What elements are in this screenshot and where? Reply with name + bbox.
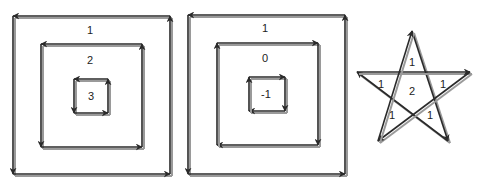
winding-number-label: 2	[409, 85, 415, 97]
winding-number-label: 1	[262, 22, 268, 34]
winding-number-label: 1	[87, 24, 93, 36]
winding-number-label: 1	[389, 109, 395, 121]
nested-squares-middle: 10-1	[188, 15, 347, 176]
winding-number-label: 1	[409, 56, 415, 68]
winding-number-diagram: 123 10-1 111211	[0, 0, 483, 187]
winding-number-label: 3	[88, 90, 94, 102]
winding-number-label: 1	[440, 78, 446, 90]
star-edge-arrow	[357, 72, 448, 141]
winding-number-label: 2	[87, 54, 93, 66]
winding-number-label: 1	[427, 109, 433, 121]
square-path-ccw: 3	[74, 79, 110, 115]
winding-number-label: -1	[261, 88, 271, 100]
pentagram: 111211	[357, 31, 472, 143]
winding-number-label: 1	[378, 78, 384, 90]
square-path-cw: -1	[249, 77, 287, 113]
nested-squares-left: 123	[13, 16, 172, 176]
winding-number-label: 0	[262, 52, 268, 64]
